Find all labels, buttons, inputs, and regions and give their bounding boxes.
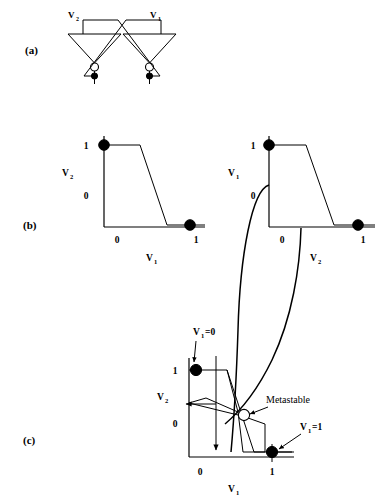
plot-c-pointer-v1-eq-0 bbox=[194, 341, 196, 362]
plot-b-right-ylabel-sub: 1 bbox=[236, 173, 239, 180]
plot-c-xlabel: V bbox=[228, 484, 235, 494]
plot-b-left-marker-high bbox=[99, 140, 110, 151]
plot-b-left-xtick-0: 0 bbox=[115, 235, 120, 245]
schematic-cross-coupled-latch: V 2 V 1 bbox=[68, 10, 176, 84]
plot-b-left-ytick-1: 1 bbox=[84, 141, 89, 151]
inverter-right-body bbox=[123, 34, 176, 63]
plot-c-annotation-v1-eq-0-sub: 1 bbox=[201, 332, 204, 339]
inverter-right-bubble-icon bbox=[146, 63, 154, 71]
schematic-node-label-v1: V bbox=[150, 10, 157, 20]
plot-b-right-xtick-1: 1 bbox=[361, 235, 366, 245]
plot-b-left-xtick-1: 1 bbox=[194, 235, 199, 245]
plot-b-right-vtc-curve bbox=[269, 145, 375, 225]
plot-b-left-ytick-0: 0 bbox=[84, 191, 89, 201]
plot-c-annotation-v1-eq-1-tail: =1 bbox=[312, 422, 322, 432]
plot-c-annotation-v1-eq-0-tail: =0 bbox=[205, 327, 215, 337]
plot-b-right-ytick-1: 1 bbox=[251, 141, 256, 151]
plot-b-right-marker-high bbox=[264, 140, 275, 151]
plot-b-left-marker-low bbox=[185, 220, 196, 231]
plot-c-butterfly: V 1 =0 Metastable V 1 =1 1 0 0 1 V 2 V 1 bbox=[157, 327, 322, 496]
figure-canvas: V 2 V 1 bbox=[0, 0, 392, 503]
plot-b-left-vtc-curve bbox=[104, 145, 205, 225]
plot-c-xtick-0: 0 bbox=[198, 467, 203, 477]
wire-cross-left-to-right bbox=[118, 20, 160, 76]
plot-b-right-xlabel: V bbox=[310, 253, 317, 263]
plot-c-annotation-metastable: Metastable bbox=[266, 394, 310, 405]
schematic-node-sub-v2: 2 bbox=[76, 16, 79, 22]
plot-c-annotation-v1-eq-1-sub: 1 bbox=[308, 427, 311, 434]
plot-c-ylabel-sub: 2 bbox=[165, 397, 168, 404]
plot-c-ytick-0: 0 bbox=[173, 419, 178, 429]
plot-c-annotation-v1-eq-1: V bbox=[300, 422, 307, 432]
inverter-left-body bbox=[68, 34, 121, 63]
plot-c-xlabel-sub: 1 bbox=[236, 489, 239, 496]
schematic-node-label-v2: V bbox=[68, 10, 75, 20]
plot-c-ytick-1: 1 bbox=[173, 366, 178, 376]
plot-c-marker-metastable bbox=[238, 409, 249, 420]
plot-c-annotation-v1-eq-0: V bbox=[193, 327, 200, 337]
plot-c-marker-stable-0 bbox=[190, 364, 201, 375]
plot-b-left-xlabel-sub: 1 bbox=[154, 258, 157, 265]
plot-c-pointer-v1-eq-1 bbox=[279, 434, 301, 449]
inverter-left-bubble-icon bbox=[91, 63, 99, 71]
plot-c-vtc-mirrored-upper bbox=[189, 403, 265, 424]
figure-root: (a) (b) (c) V 2 V 1 bbox=[0, 0, 392, 503]
plot-c-pointer-metastable bbox=[250, 407, 268, 414]
plot-b-right-marker-low bbox=[353, 220, 364, 231]
plot-b-left-ylabel-sub: 2 bbox=[70, 173, 73, 180]
plot-c-xtick-1: 1 bbox=[270, 467, 275, 477]
mapping-curves-b-to-c bbox=[225, 185, 301, 452]
plot-b-right-xtick-0: 0 bbox=[280, 235, 285, 245]
plot-b-left: 1 0 0 1 V 2 V 1 bbox=[62, 136, 205, 265]
plot-b-right-xlabel-sub: 2 bbox=[318, 258, 321, 265]
plot-c-ylabel: V bbox=[157, 392, 164, 402]
plot-b-left-ylabel: V bbox=[62, 168, 69, 178]
wire-cross-right-to-left bbox=[84, 20, 126, 76]
plot-b-right-ytick-0: 0 bbox=[251, 191, 256, 201]
plot-b-right: 1 0 0 1 V 1 V 2 bbox=[228, 136, 375, 265]
plot-b-right-ylabel: V bbox=[228, 168, 235, 178]
plot-b-left-xlabel: V bbox=[146, 253, 153, 263]
